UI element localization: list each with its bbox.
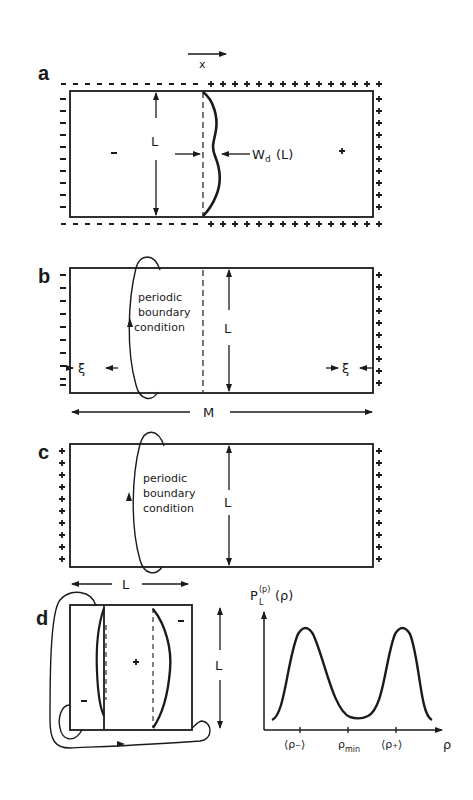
panel-d-left-interface-curved — [97, 608, 104, 716]
panel-b-pbc-line2: boundary — [138, 306, 191, 319]
figure: x a — [0, 0, 473, 800]
svg-text:d: d — [265, 154, 271, 164]
panel-c-pbc-arrow-icon — [126, 492, 132, 501]
panel-b: b periodic boundary condition L ξ ξ M — [38, 257, 382, 420]
panel-c-pbc-line3: condition — [143, 502, 194, 515]
plot-x-label: ρ — [443, 737, 451, 752]
svg-text:(ρ): (ρ) — [275, 588, 293, 603]
panel-a-left-boundary — [60, 98, 66, 208]
panel-a-height-label: L — [151, 134, 159, 149]
panel-a-top-boundary-minus — [61, 83, 198, 85]
panel-c-pbc-line2: boundary — [143, 487, 196, 500]
plot-y-label: P L (p) (ρ) — [250, 585, 293, 607]
panel-d-plus-phase — [133, 659, 139, 665]
panel-b-right-boundary — [376, 272, 382, 386]
panel-d-right-interface-curved — [153, 609, 170, 728]
svg-text:L: L — [259, 598, 264, 607]
panel-b-width-label: M — [203, 405, 214, 420]
panel-c-label: c — [38, 441, 49, 463]
panel-c: c periodic boundary condition L L — [38, 432, 382, 592]
svg-text:(p): (p) — [259, 585, 270, 594]
panel-b-pbc-arrow-icon — [127, 318, 133, 327]
panel-a-bottom-boundary-minus — [61, 223, 198, 225]
panel-d: d L — [36, 592, 223, 748]
x-axis-label: x — [199, 58, 206, 71]
tick-rho-min: ρ min — [338, 738, 360, 754]
panel-c-box — [70, 444, 373, 567]
x-direction-indicator: x — [188, 54, 226, 71]
panel-d-pbc-loop-outer — [50, 592, 210, 748]
svg-text:W: W — [252, 147, 265, 162]
svg-text:P: P — [250, 588, 258, 603]
svg-text:(L): (L) — [276, 147, 293, 162]
panel-c-right-boundary — [376, 448, 382, 562]
panel-b-height-label: L — [224, 321, 232, 336]
panel-a-bottom-boundary-plus — [208, 221, 382, 227]
panel-a-label: a — [38, 62, 50, 84]
panel-c-pbc-line1: periodic — [143, 472, 187, 485]
distribution-curve — [272, 628, 432, 720]
panel-a-minus-phase — [111, 152, 117, 154]
tick-rho-plus: ⟨ρ₊⟩ — [381, 738, 402, 751]
panel-c-width-label: L — [122, 577, 130, 592]
panel-b-pbc-line1: periodic — [138, 291, 182, 304]
panel-a-plus-phase — [339, 148, 345, 154]
distribution-plot: P L (p) (ρ) ⟨ρ₋⟩ ρ min ⟨ρ₊⟩ ρ — [250, 585, 451, 754]
panel-d-box — [70, 605, 192, 730]
panel-a-interface-width-label: W d (L) — [252, 147, 293, 164]
panel-b-label: b — [38, 265, 50, 287]
tick-rho-minus: ⟨ρ₋⟩ — [284, 738, 305, 751]
svg-text:ρ: ρ — [338, 738, 345, 751]
panel-b-box — [70, 268, 373, 393]
panel-b-xi-right: ξ — [342, 361, 349, 376]
panel-b-pbc-line3: condition — [134, 321, 185, 334]
panel-a: a — [38, 62, 382, 227]
panel-d-minus-bottom — [81, 700, 87, 702]
panel-b-left-boundary — [60, 274, 66, 386]
panel-d-label: d — [36, 607, 48, 629]
panel-a-rough-interface — [203, 92, 220, 216]
panel-a-top-boundary-plus — [208, 81, 382, 87]
panel-d-minus-top — [178, 620, 184, 622]
panel-d-height-label: L — [215, 658, 223, 673]
panel-c-height-label: L — [224, 495, 232, 510]
panel-c-left-boundary — [59, 448, 65, 562]
svg-text:min: min — [345, 745, 360, 754]
panel-a-right-boundary — [376, 96, 382, 210]
panel-b-xi-left: ξ — [78, 361, 85, 376]
